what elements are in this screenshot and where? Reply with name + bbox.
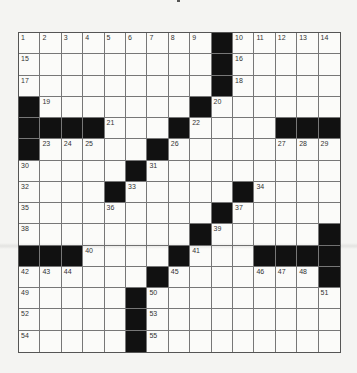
grid-cell[interactable]: 43 [40, 267, 61, 288]
grid-cell[interactable] [105, 97, 126, 118]
grid-cell[interactable] [105, 54, 126, 75]
grid-cell[interactable] [319, 331, 340, 352]
grid-cell[interactable]: 23 [40, 139, 61, 160]
grid-cell[interactable]: 52 [19, 309, 40, 330]
grid-cell[interactable] [83, 182, 104, 203]
grid-cell[interactable] [83, 288, 104, 309]
grid-cell[interactable] [40, 288, 61, 309]
grid-cell[interactable] [233, 139, 254, 160]
grid-cell[interactable]: 24 [62, 139, 83, 160]
grid-cell[interactable] [62, 309, 83, 330]
grid-cell[interactable] [254, 118, 275, 139]
grid-cell[interactable] [190, 331, 211, 352]
grid-cell[interactable] [212, 139, 233, 160]
grid-cell[interactable] [254, 309, 275, 330]
grid-cell[interactable] [276, 161, 297, 182]
grid-cell[interactable]: 51 [319, 288, 340, 309]
grid-cell[interactable] [233, 224, 254, 245]
grid-cell[interactable] [297, 224, 318, 245]
grid-cell[interactable] [83, 267, 104, 288]
grid-cell[interactable] [83, 224, 104, 245]
grid-cell[interactable] [319, 203, 340, 224]
grid-cell[interactable] [212, 267, 233, 288]
grid-cell[interactable] [276, 54, 297, 75]
grid-cell[interactable]: 14 [319, 33, 340, 54]
grid-cell[interactable] [254, 224, 275, 245]
grid-cell[interactable] [83, 161, 104, 182]
grid-cell[interactable] [169, 161, 190, 182]
grid-cell[interactable]: 8 [169, 33, 190, 54]
grid-cell[interactable] [169, 309, 190, 330]
grid-cell[interactable]: 20 [212, 97, 233, 118]
grid-cell[interactable]: 41 [190, 246, 211, 267]
grid-cell[interactable]: 6 [126, 33, 147, 54]
grid-cell[interactable]: 12 [276, 33, 297, 54]
grid-cell[interactable] [233, 288, 254, 309]
grid-cell[interactable] [190, 161, 211, 182]
grid-cell[interactable] [233, 331, 254, 352]
grid-cell[interactable] [319, 54, 340, 75]
grid-cell[interactable]: 35 [19, 203, 40, 224]
grid-cell[interactable] [212, 161, 233, 182]
grid-cell[interactable]: 13 [297, 33, 318, 54]
grid-cell[interactable]: 9 [190, 33, 211, 54]
grid-cell[interactable] [147, 224, 168, 245]
grid-cell[interactable] [190, 288, 211, 309]
grid-cell[interactable] [62, 54, 83, 75]
grid-cell[interactable] [62, 97, 83, 118]
grid-cell[interactable]: 44 [62, 267, 83, 288]
grid-cell[interactable]: 49 [19, 288, 40, 309]
grid-cell[interactable] [126, 54, 147, 75]
grid-cell[interactable] [276, 97, 297, 118]
grid-cell[interactable] [297, 331, 318, 352]
grid-cell[interactable] [297, 161, 318, 182]
grid-cell[interactable] [62, 331, 83, 352]
grid-cell[interactable] [276, 309, 297, 330]
grid-cell[interactable]: 7 [147, 33, 168, 54]
grid-cell[interactable] [83, 76, 104, 97]
grid-cell[interactable]: 38 [19, 224, 40, 245]
grid-cell[interactable] [40, 331, 61, 352]
grid-cell[interactable] [233, 161, 254, 182]
grid-cell[interactable]: 5 [105, 33, 126, 54]
grid-cell[interactable]: 25 [83, 139, 104, 160]
grid-cell[interactable] [254, 161, 275, 182]
grid-cell[interactable] [297, 203, 318, 224]
grid-cell[interactable] [83, 203, 104, 224]
grid-cell[interactable]: 31 [147, 161, 168, 182]
grid-cell[interactable]: 1 [19, 33, 40, 54]
grid-cell[interactable] [169, 97, 190, 118]
grid-cell[interactable] [254, 139, 275, 160]
grid-cell[interactable]: 22 [190, 118, 211, 139]
grid-cell[interactable] [83, 54, 104, 75]
grid-cell[interactable] [190, 203, 211, 224]
grid-cell[interactable] [319, 97, 340, 118]
grid-cell[interactable] [62, 203, 83, 224]
grid-cell[interactable] [169, 182, 190, 203]
grid-cell[interactable]: 40 [83, 246, 104, 267]
grid-cell[interactable] [62, 182, 83, 203]
grid-cell[interactable] [83, 309, 104, 330]
grid-cell[interactable]: 48 [297, 267, 318, 288]
grid-cell[interactable] [147, 246, 168, 267]
grid-cell[interactable]: 32 [19, 182, 40, 203]
grid-cell[interactable]: 46 [254, 267, 275, 288]
grid-cell[interactable]: 36 [105, 203, 126, 224]
grid-cell[interactable] [126, 246, 147, 267]
grid-cell[interactable] [190, 54, 211, 75]
grid-cell[interactable]: 55 [147, 331, 168, 352]
grid-cell[interactable] [276, 224, 297, 245]
grid-cell[interactable] [147, 54, 168, 75]
grid-cell[interactable] [105, 331, 126, 352]
grid-cell[interactable]: 50 [147, 288, 168, 309]
grid-cell[interactable] [233, 246, 254, 267]
grid-cell[interactable] [276, 203, 297, 224]
grid-cell[interactable] [126, 97, 147, 118]
grid-cell[interactable] [62, 224, 83, 245]
grid-cell[interactable] [297, 97, 318, 118]
grid-cell[interactable] [319, 161, 340, 182]
grid-cell[interactable]: 34 [254, 182, 275, 203]
grid-cell[interactable] [212, 118, 233, 139]
grid-cell[interactable]: 37 [233, 203, 254, 224]
grid-cell[interactable] [40, 203, 61, 224]
